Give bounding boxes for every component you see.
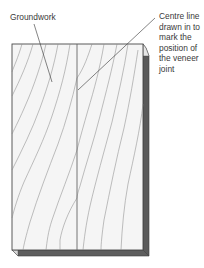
board-bottom-edge xyxy=(12,250,149,256)
centre-line-label-line-3: mark the xyxy=(159,32,200,43)
centre-line-label-line-4: position of xyxy=(159,43,200,54)
centre-line-label-line-1: Centre line xyxy=(159,11,200,22)
centre-line-label-line-6: joint xyxy=(159,64,200,75)
centre-line-label-line-5: the veneer xyxy=(159,53,200,64)
board-top-bevel xyxy=(143,44,149,56)
board-corner-bevel xyxy=(12,250,18,256)
board-right-edge xyxy=(143,44,149,256)
centre-line-label: Centre line drawn in to mark the positio… xyxy=(159,11,200,75)
centre-line-label-line-2: drawn in to xyxy=(159,22,200,33)
groundwork-label: Groundwork xyxy=(10,12,56,23)
